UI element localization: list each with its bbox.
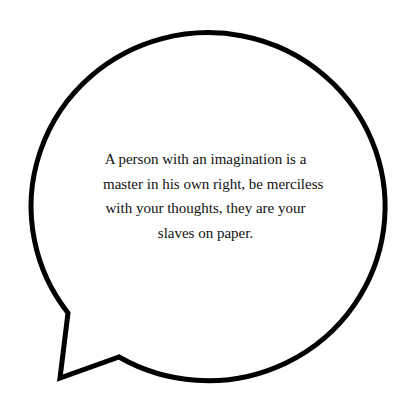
quote-text: A person with an imagination is a master… [103,147,308,245]
quote-line-1: A person with an imagination is a [103,147,308,172]
quote-line-2: master in his own right, be merciless [103,172,308,197]
quote-line-3: with your thoughts, they are your [103,196,308,221]
quote-line-4: slaves on paper. [103,221,308,246]
